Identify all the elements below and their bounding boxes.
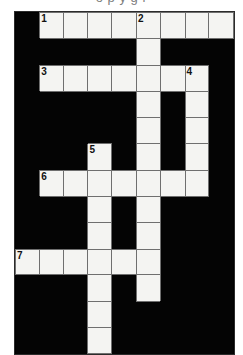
crossword-cell-open[interactable] [88,13,112,39]
crossword-cell-open[interactable] [185,170,209,196]
crossword-cell-block [112,144,137,170]
crossword-cell-block [40,91,64,117]
crossword-cell-letter [137,92,160,117]
crossword-cell-block [112,196,137,222]
crossword-cell-open[interactable] [88,65,112,91]
crossword-table: 1234567 [15,12,234,354]
crossword-cell-letter [88,13,111,38]
crossword-cell-open[interactable] [136,38,160,65]
crossword-cell-block [16,196,40,222]
crossword-cell-open[interactable] [160,13,185,39]
crossword-cell-open[interactable] [136,249,160,275]
crossword-cell-open[interactable] [209,13,233,39]
crossword-cell-open[interactable] [185,91,209,117]
crossword-cell-open[interactable] [136,118,160,144]
crossword-cell-letter [209,13,232,38]
crossword-cell-open[interactable] [185,13,209,39]
crossword-cell-open[interactable] [88,328,112,354]
crossword-cell-block [160,223,185,249]
crossword-cell-open[interactable] [64,65,88,91]
crossword-cell-letter [137,250,160,275]
crossword-cell-block [112,275,137,301]
crossword-cell-open[interactable] [88,249,112,275]
crossword-cell-letter [88,171,111,196]
crossword-cell-block [185,249,209,275]
crossword-cell-block [16,301,40,327]
crossword-cell-letter [64,171,87,196]
crossword-cell-open[interactable] [40,249,64,275]
crossword-cell-block [160,38,185,65]
crossword-cell-open[interactable] [185,118,209,144]
crossword-row: 7 [16,249,234,275]
crossword-cell-open[interactable] [88,275,112,301]
crossword-clue-number: 2 [138,13,144,24]
crossword-cell-block [209,118,233,144]
crossword-cell-block [88,91,112,117]
crossword-cell-open[interactable] [64,249,88,275]
crossword-cell-block [64,144,88,170]
crossword-cell-open[interactable] [64,170,88,196]
crossword-cell-open[interactable] [112,170,137,196]
crossword-cell-letter [88,275,111,300]
crossword-cell-block [136,301,160,327]
crossword-cell-open[interactable] [136,196,160,222]
crossword-cell-open[interactable] [136,170,160,196]
crossword-cell-block [209,65,233,91]
crossword-cell-open[interactable]: 1 [40,13,64,39]
crossword-cell-block [64,196,88,222]
crossword-cell-open[interactable]: 2 [136,13,160,39]
crossword-cell-letter [137,171,160,196]
crossword-row [16,91,234,117]
crossword-cell-block [16,144,40,170]
crossword-cell-open[interactable] [136,223,160,249]
crossword-cell-open[interactable]: 6 [40,170,64,196]
crossword-cell-open[interactable] [88,170,112,196]
crossword-cell-open[interactable] [136,275,160,301]
crossword-row [16,275,234,301]
crossword-cell-open[interactable]: 3 [40,65,64,91]
crossword-grid[interactable]: 1234567 [14,11,235,355]
crossword-cell-open[interactable] [64,13,88,39]
crossword-cell-letter [161,66,185,91]
crossword-cell-letter [112,13,136,38]
crossword-cell-open[interactable] [88,223,112,249]
crossword-cell-block [16,328,40,354]
crossword-row [16,223,234,249]
crossword-cell-block [40,144,64,170]
crossword-cell-block [40,223,64,249]
crossword-cell-open[interactable]: 4 [185,65,209,91]
crossword-clue-number: 1 [41,13,47,24]
crossword-cell-block [209,328,233,354]
crossword-cell-open[interactable] [160,65,185,91]
crossword-row: 5 [16,144,234,170]
crossword-cell-block [40,118,64,144]
crossword-cell-block [112,328,137,354]
crossword-cell-block [64,91,88,117]
crossword-cell-open[interactable] [112,249,137,275]
crossword-cell-block [160,118,185,144]
crossword-cell-open[interactable] [88,196,112,222]
crossword-cell-block [185,223,209,249]
crossword-cell-block [40,301,64,327]
crossword-cell-open[interactable] [112,65,137,91]
crossword-cell-open[interactable] [112,13,137,39]
crossword-cell-open[interactable] [160,170,185,196]
crossword-cell-block [112,118,137,144]
crossword-cell-open[interactable] [136,144,160,170]
crossword-cell-block [16,118,40,144]
crossword-cell-letter [137,197,160,222]
crossword-cell-letter [112,66,136,91]
crossword-cell-open[interactable] [136,91,160,117]
crossword-cell-block [209,91,233,117]
crossword-cell-open[interactable] [185,144,209,170]
crossword-cell-block [160,249,185,275]
crossword-cell-block [209,249,233,275]
crossword-cell-open[interactable] [88,301,112,327]
crossword-cell-block [185,275,209,301]
crossword-row: 34 [16,65,234,91]
crossword-cell-open[interactable]: 7 [16,249,40,275]
crossword-cell-block [16,65,40,91]
crossword-cell-open[interactable]: 5 [88,144,112,170]
crossword-cell-block [64,275,88,301]
crossword-cell-open[interactable] [136,65,160,91]
